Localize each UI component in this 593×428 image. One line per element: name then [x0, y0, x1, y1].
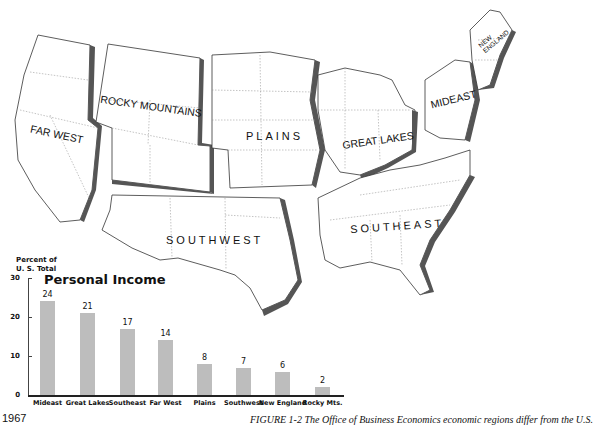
y-tick-label: 30: [8, 274, 20, 282]
bar-value-label: 17: [116, 318, 140, 327]
y-tick: [28, 278, 32, 279]
bar-value-label: 2: [311, 376, 335, 385]
y-tick-label: 0: [8, 391, 20, 399]
x-category-label: Rocky Mts.: [298, 399, 348, 407]
region-label-plains: PLAINS: [246, 130, 303, 142]
bar-value-label: 7: [232, 357, 256, 366]
y-axis: [28, 278, 29, 395]
bar-southwest: [236, 368, 251, 395]
bar-value-label: 14: [154, 329, 178, 338]
y-tick-label: 20: [8, 313, 20, 321]
bar-value-label: 24: [36, 290, 60, 299]
bar-plains: [197, 364, 212, 395]
bar-great-lakes: [80, 313, 95, 395]
bar-rocky-mts: [315, 387, 330, 395]
year-label: 1967: [2, 412, 26, 424]
bar-mideast: [40, 301, 55, 395]
region-label-southwest: SOUTHWEST: [166, 234, 263, 246]
bar-value-label: 21: [76, 302, 100, 311]
bar-new-england: [275, 372, 290, 395]
bar-far-west: [158, 340, 173, 395]
y-tick-label: 10: [8, 352, 20, 360]
x-axis: [28, 395, 344, 397]
y-tick: [28, 317, 32, 318]
chart-title: Personal Income: [44, 272, 166, 287]
figure-caption: FIGURE 1-2 The Office of Business Econom…: [250, 414, 593, 425]
bar-value-label: 8: [193, 353, 217, 362]
southwest-region: [102, 195, 298, 310]
y-tick: [28, 356, 32, 357]
bar-southeast: [120, 329, 135, 395]
bar-value-label: 6: [271, 361, 295, 370]
